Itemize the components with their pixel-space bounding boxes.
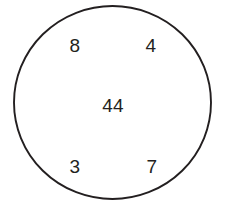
- number-bottom-right: 7: [147, 157, 158, 176]
- circle-number-diagram: 8 4 44 3 7: [0, 0, 228, 205]
- number-top-right: 4: [146, 36, 157, 55]
- number-top-left: 8: [70, 36, 81, 55]
- number-bottom-left: 3: [70, 157, 81, 176]
- number-center: 44: [102, 96, 124, 115]
